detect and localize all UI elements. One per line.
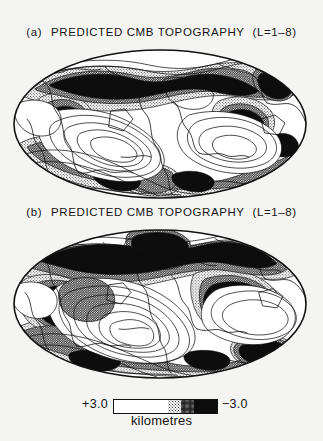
panel-a-title-suffix: (L=1–8)	[253, 26, 297, 38]
panel-a-title-text: PREDICTED CMB TOPOGRAPHY	[51, 26, 245, 38]
panel-a-title: (a)PREDICTED CMB TOPOGRAPHY(L=1–8)	[0, 26, 323, 38]
panel-b-label: (b)	[26, 206, 42, 218]
cmb-topography-map-a	[13, 49, 307, 199]
colorbar-segment-mid-gray	[181, 400, 194, 413]
colorbar-legend: +3.0 −3.0 kilometres	[0, 396, 323, 441]
colorbar-units-label: kilometres	[0, 413, 323, 428]
colorbar-max-label: +3.0	[60, 397, 108, 411]
colorbar-segment-high-white	[114, 400, 168, 413]
map-panel-a	[13, 49, 307, 199]
panel-b-title-suffix: (L=1–8)	[253, 206, 297, 218]
colorbar-segment-light-stipple	[168, 400, 181, 413]
panel-a-label: (a)	[26, 26, 42, 38]
panel-b-title-text: PREDICTED CMB TOPOGRAPHY	[51, 206, 245, 218]
colorbar-segment-black	[194, 400, 217, 413]
panel-b-title: (b)PREDICTED CMB TOPOGRAPHY(L=1–8)	[0, 206, 323, 218]
figure-root: (a)PREDICTED CMB TOPOGRAPHY(L=1–8)	[0, 0, 323, 441]
cmb-topography-map-b	[13, 229, 307, 379]
colorbar-min-label: −3.0	[222, 397, 274, 411]
colorbar	[113, 399, 218, 414]
map-panel-b	[13, 229, 307, 379]
